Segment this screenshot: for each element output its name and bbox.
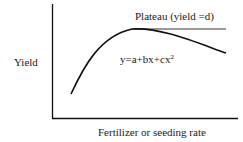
equation-exponent: 2 <box>170 53 174 61</box>
y-axis-label: Yield <box>14 56 38 68</box>
equation-label: y=a+bx+cx2 <box>120 53 174 65</box>
equation-text: y=a+bx+cx <box>120 53 170 65</box>
plateau-label: Plateau (yield =d) <box>135 10 214 22</box>
x-axis-label: Fertilizer or seeding rate <box>98 126 206 138</box>
